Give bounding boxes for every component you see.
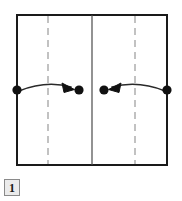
node-left-outer-dot <box>12 85 21 94</box>
figure-panel: 1 <box>0 0 182 201</box>
arrow-left-to-center-head <box>62 83 75 93</box>
node-right-outer-dot <box>162 85 171 94</box>
figure-number-text: 1 <box>9 182 15 194</box>
figure-number-badge: 1 <box>4 179 20 196</box>
arrow-right-to-center-head <box>109 83 122 93</box>
node-right-inner-dot <box>99 85 108 94</box>
node-left-inner-dot <box>74 85 83 94</box>
diagram-canvas <box>0 0 182 201</box>
